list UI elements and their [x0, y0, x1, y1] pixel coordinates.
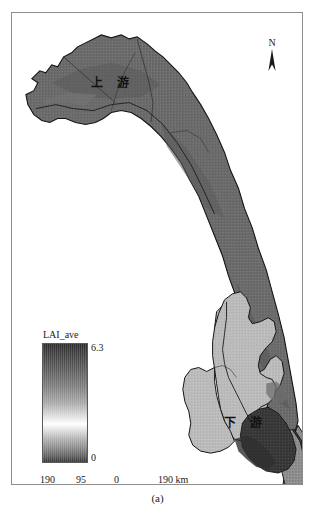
map-label-upstream: 上 游	[91, 73, 134, 90]
map-frame: 上 游 下 游 N LAI_ave 6.3 0 190 95	[11, 12, 303, 485]
legend-max-value: 6.3	[91, 343, 104, 353]
legend-body: 6.3 0	[41, 343, 131, 465]
scale-bar: 190 95 0 190 km	[40, 474, 210, 485]
scale-tick-label-3: 190 km	[158, 474, 188, 485]
legend-min-value: 0	[91, 453, 96, 463]
figure-panel: 上 游 下 游 N LAI_ave 6.3 0 190 95	[0, 0, 315, 513]
north-arrow-label: N	[259, 37, 285, 48]
scale-tick-label-0: 190	[40, 474, 55, 485]
legend-color-ramp	[42, 343, 88, 463]
scale-bar-labels: 190 95 0 190 km	[40, 474, 210, 485]
figure-caption: (a)	[0, 492, 315, 504]
legend-ramp-texture	[43, 344, 87, 462]
legend: LAI_ave 6.3 0	[41, 329, 131, 465]
scale-tick-label-1: 95	[76, 474, 86, 485]
map-label-downstream: 下 游	[224, 413, 267, 430]
north-arrow-icon	[266, 49, 278, 71]
north-arrow: N	[259, 37, 285, 81]
scale-tick-label-2: 0	[114, 474, 119, 485]
legend-title: LAI_ave	[43, 329, 131, 341]
